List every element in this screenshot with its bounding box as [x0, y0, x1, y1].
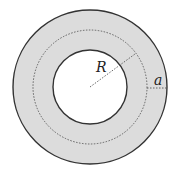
annulus-diagram: R a — [0, 0, 178, 171]
half-width-label: a — [154, 72, 162, 88]
radius-label: R — [95, 59, 107, 75]
